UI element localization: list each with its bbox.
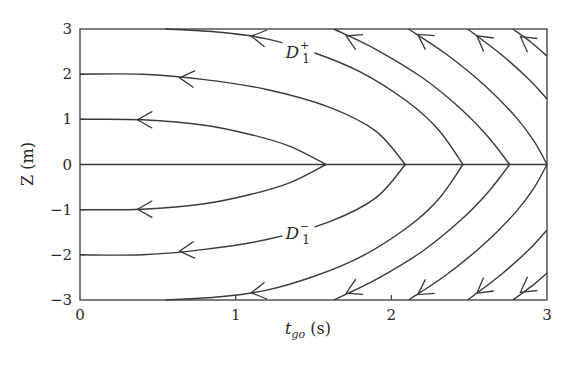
trajectory-chart: 0123−3−2−10123 D+1D−1 Z (m) tgo (s) (0, 0, 578, 368)
y-tick-label: 2 (62, 65, 72, 83)
trajectory-upper-6 (468, 29, 547, 99)
x-tick-label: 0 (75, 306, 85, 324)
trajectory-lower-6 (468, 230, 547, 300)
y-tick-label: −1 (50, 201, 72, 219)
y-tick-label: 1 (62, 110, 72, 128)
trajectory-upper-Z0=1 (80, 119, 326, 164)
region-label: D+1 (284, 39, 310, 66)
arrow-icon (180, 242, 196, 259)
y-tick-label: 0 (62, 156, 72, 174)
y-axis-label: Z (m) (18, 142, 37, 186)
x-tick-label: 1 (231, 306, 241, 324)
y-tick-label: −2 (50, 246, 72, 264)
region-labels: D+1D−1 (282, 38, 314, 247)
trajectory-lower-7 (513, 273, 547, 300)
x-axis-label-sub: go (291, 328, 305, 341)
region-label: D−1 (284, 220, 310, 247)
arrow-icon (521, 37, 538, 53)
arrow-icon (180, 71, 196, 88)
x-axis-label-unit: (s) (305, 319, 331, 338)
y-tick-label: −3 (50, 291, 72, 309)
y-tick-label: 3 (62, 20, 72, 38)
axis-ticks (80, 74, 391, 300)
x-axis-label: tgo (s) (285, 319, 331, 341)
x-tick-label: 2 (387, 306, 397, 324)
tick-labels: 0123−3−2−10123 (50, 20, 552, 324)
trajectory-lower-Z0=-1 (80, 165, 326, 210)
arrow-icon (521, 277, 538, 293)
trajectory-upper-7 (513, 29, 547, 56)
x-tick-label: 3 (542, 306, 552, 324)
